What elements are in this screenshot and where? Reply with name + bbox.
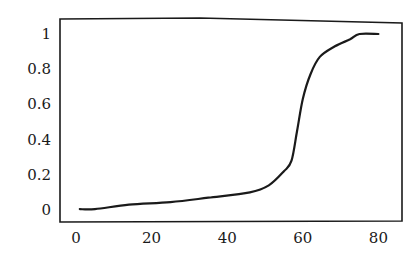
x-tick-label: 0 (71, 229, 81, 247)
x-axis-tick-labels: 020406080 (71, 229, 388, 247)
x-tick-label: 60 (293, 229, 312, 247)
y-tick-label: 1 (41, 25, 51, 43)
plot-frame (60, 18, 402, 222)
y-tick-label: 0.4 (27, 131, 51, 149)
y-axis-tick-labels: 00.20.40.60.81 (27, 25, 51, 219)
y-tick-label: 0.8 (27, 60, 51, 78)
data-line (80, 34, 379, 210)
x-tick-label: 20 (142, 229, 161, 247)
y-tick-label: 0.2 (27, 166, 51, 184)
x-tick-label: 40 (218, 229, 237, 247)
y-tick-label: 0.6 (27, 95, 51, 113)
x-tick-label: 80 (369, 229, 388, 247)
line-chart: 00.20.40.60.81 020406080 (0, 0, 419, 260)
y-tick-label: 0 (41, 201, 51, 219)
